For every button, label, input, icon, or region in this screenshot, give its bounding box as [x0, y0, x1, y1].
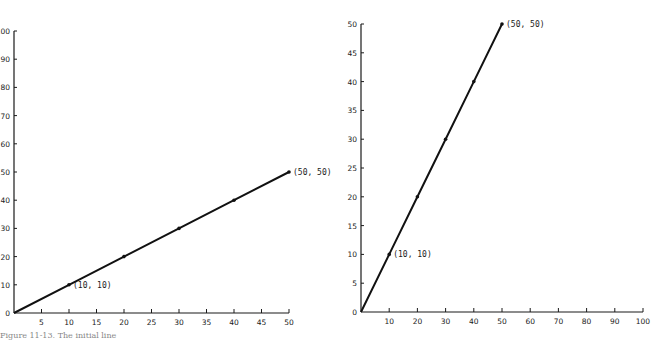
- y-tick-label: 25: [347, 164, 357, 173]
- x-tick-label: 30: [174, 318, 184, 327]
- data-point: [500, 22, 504, 26]
- y-tick-label: 30: [347, 135, 357, 144]
- point-label: (10, 10): [73, 281, 112, 290]
- chart-figure: 0102030405060708090100510152025303540455…: [0, 0, 668, 340]
- y-tick-label: 35: [347, 106, 357, 115]
- data-point: [416, 195, 420, 199]
- data-point: [122, 255, 126, 259]
- point-label: (50, 50): [293, 168, 332, 177]
- data-point: [387, 253, 391, 257]
- y-tick-label: 45: [347, 49, 357, 58]
- right-chart: 0510152025303540455010203040506070809010…: [347, 20, 650, 326]
- left-chart: 0102030405060708090100510152025303540455…: [0, 27, 332, 327]
- x-tick-label: 100: [636, 317, 651, 326]
- x-tick-label: 45: [257, 318, 267, 327]
- y-tick-label: 60: [0, 140, 10, 149]
- x-tick-label: 50: [284, 318, 294, 327]
- y-tick-label: 50: [347, 20, 357, 29]
- x-tick-label: 80: [582, 317, 592, 326]
- x-tick-label: 40: [229, 318, 239, 327]
- x-tick-label: 10: [64, 318, 74, 327]
- x-tick-label: 50: [497, 317, 507, 326]
- y-tick-label: 50: [0, 168, 10, 177]
- x-tick-label: 20: [413, 317, 423, 326]
- x-tick-label: 25: [147, 318, 157, 327]
- y-tick-label: 20: [0, 253, 10, 262]
- x-tick-label: 40: [469, 317, 479, 326]
- y-tick-label: 0: [5, 309, 10, 318]
- data-point: [177, 227, 181, 231]
- y-tick-label: 40: [0, 196, 10, 205]
- x-tick-label: 35: [202, 318, 212, 327]
- x-tick-label: 15: [92, 318, 102, 327]
- y-tick-label: 100: [0, 27, 10, 36]
- y-tick-label: 5: [352, 279, 357, 288]
- y-tick-label: 70: [0, 112, 10, 121]
- data-point: [67, 283, 71, 287]
- y-tick-label: 40: [347, 78, 357, 87]
- x-tick-label: 5: [39, 318, 44, 327]
- x-tick-label: 60: [525, 317, 535, 326]
- x-tick-label: 20: [119, 318, 129, 327]
- y-tick-label: 90: [0, 55, 10, 64]
- y-tick-label: 10: [0, 281, 10, 290]
- y-tick-label: 80: [0, 83, 10, 92]
- x-tick-label: 10: [384, 317, 394, 326]
- y-tick-label: 30: [0, 224, 10, 233]
- y-tick-label: 0: [352, 308, 357, 317]
- point-label: (10, 10): [393, 250, 432, 259]
- data-point: [232, 198, 236, 202]
- data-point: [287, 170, 291, 174]
- x-tick-label: 30: [441, 317, 451, 326]
- y-tick-label: 20: [347, 193, 357, 202]
- y-tick-label: 10: [347, 250, 357, 259]
- x-tick-label: 70: [554, 317, 564, 326]
- data-line: [361, 24, 502, 312]
- y-tick-label: 15: [347, 222, 357, 231]
- data-line: [14, 172, 289, 313]
- data-point: [472, 80, 476, 84]
- x-tick-label: 90: [610, 317, 620, 326]
- point-label: (50, 50): [506, 20, 545, 29]
- figure-caption: Figure 11-13. The initial line: [0, 331, 116, 340]
- data-point: [444, 137, 448, 141]
